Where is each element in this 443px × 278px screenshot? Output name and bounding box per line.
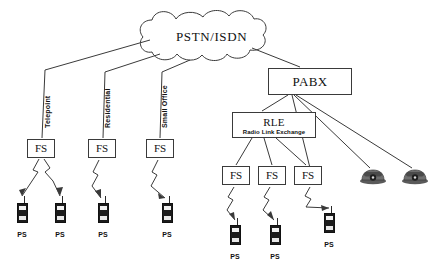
link-label-small-office: Small Office — [161, 85, 168, 128]
handset-keypad — [19, 216, 26, 220]
link-rle-fs1 — [236, 138, 252, 165]
ps-label-7: PS — [318, 241, 340, 248]
link-pabx-rle — [262, 95, 288, 111]
ps-label-1: PS — [11, 231, 33, 238]
fs-label: FS — [230, 170, 242, 181]
fs-node-residential[interactable]: FS — [88, 139, 116, 158]
radio-link-fs3-ps4 — [151, 160, 165, 199]
radio-link-fs5-ps6 — [263, 187, 274, 220]
fs-label: FS — [96, 143, 108, 154]
rle-subtitle: Radio Link Exchange — [243, 129, 306, 135]
link-rle-fs3 — [276, 138, 306, 165]
fs-node-telepoint[interactable]: FS — [27, 139, 55, 158]
ps-label-6: PS — [264, 253, 286, 260]
rle-node[interactable]: RLE Radio Link Exchange — [232, 112, 316, 138]
ps-handset-icon-1[interactable] — [15, 196, 29, 230]
ps-handset-icon-3[interactable] — [96, 196, 110, 230]
radio-link-fs1-ps2 — [44, 159, 63, 196]
handset-screen — [57, 206, 64, 210]
handset-screen — [100, 206, 107, 210]
pabx-label: PABX — [292, 75, 327, 88]
telephone-1-icon — [360, 170, 386, 184]
fs-label: FS — [302, 170, 314, 181]
fs-label: FS — [154, 143, 166, 154]
link-cloud-telepoint — [45, 40, 150, 70]
radio-link-fs1-ps1 — [19, 159, 39, 196]
handset-screen — [232, 228, 239, 232]
fs-label: FS — [35, 143, 47, 154]
ps-handset-icon-4[interactable] — [160, 196, 174, 230]
handset-keypad — [272, 238, 279, 242]
link-cloud-pabx — [252, 48, 300, 67]
ps-handset-icon-5[interactable] — [228, 218, 242, 252]
handset-screen — [326, 216, 333, 220]
fs-node-rle-2[interactable]: FS — [258, 166, 286, 185]
handset-keypad — [232, 238, 239, 242]
rle-title: RLE — [263, 117, 285, 128]
radio-link-fs4-ps5 — [227, 187, 235, 220]
handset-screen — [19, 206, 26, 210]
link-cloud-residential — [105, 54, 160, 72]
ps-label-5: PS — [224, 253, 246, 260]
link-label-residential: Residential — [104, 88, 111, 128]
fs-node-small-office[interactable]: FS — [146, 139, 174, 158]
link-cloud-smalloffice — [162, 60, 190, 72]
link-label-telepoint: Telepoint — [44, 96, 51, 128]
telephone-2-icon — [402, 170, 428, 184]
handset-keypad — [100, 216, 107, 220]
pstn-isdn-label: PSTN/ISDN — [176, 29, 247, 45]
handset-screen — [164, 206, 171, 210]
fs-label: FS — [266, 170, 278, 181]
handset-keypad — [164, 216, 171, 220]
handset-screen — [272, 228, 279, 232]
link-rle-fs2 — [264, 138, 272, 165]
handset-keypad — [57, 216, 64, 220]
ps-handset-icon-2[interactable] — [53, 196, 67, 230]
ps-label-3: PS — [92, 231, 114, 238]
ps-handset-icon-7[interactable] — [322, 206, 336, 240]
ps-label-2: PS — [49, 231, 71, 238]
fs-node-rle-1[interactable]: FS — [222, 166, 250, 185]
pabx-node[interactable]: PABX — [268, 68, 352, 95]
ps-label-4: PS — [156, 231, 178, 238]
diagram-canvas: PSTN/ISDN PABX RLE Radio Link Exchange T… — [0, 0, 443, 278]
handset-keypad — [326, 226, 333, 230]
ps-handset-icon-6[interactable] — [268, 218, 282, 252]
fs-node-rle-3[interactable]: FS — [294, 166, 322, 185]
radio-link-fs2-ps3 — [92, 160, 101, 198]
